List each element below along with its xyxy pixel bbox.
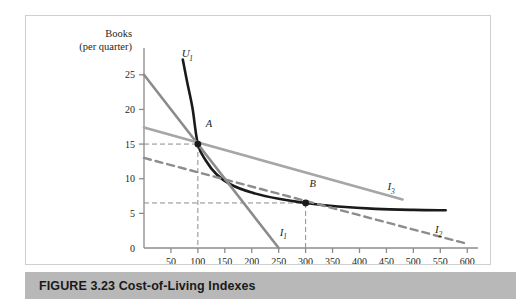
y-axis-tick-label: 5 xyxy=(130,208,135,219)
x-axis-tick-label: 150 xyxy=(217,256,232,264)
curve-label-sub-i3: 3 xyxy=(390,187,395,196)
y-axis-title-line1: Books xyxy=(105,28,132,39)
x-axis-tick-label: 300 xyxy=(298,256,313,264)
x-axis-tick-label: 400 xyxy=(352,256,367,264)
figure-root: 0510152025501001502002503003504004505005… xyxy=(0,0,516,299)
x-axis-tick-label: 200 xyxy=(244,256,259,264)
y-axis-tick-label: 10 xyxy=(125,173,135,184)
curve-label-sub-u1: 1 xyxy=(189,54,193,63)
x-axis-tick-label: 50 xyxy=(166,256,176,264)
figure-caption-text: FIGURE 3.23 Cost-of-Living Indexes xyxy=(39,279,256,293)
data-point-label-b: B xyxy=(310,178,317,189)
y-axis-tick-label: 0 xyxy=(130,243,135,254)
y-axis-title-line2: (per quarter) xyxy=(79,41,132,53)
y-axis-tick-label: 15 xyxy=(125,139,135,150)
x-axis-tick-label: 500 xyxy=(406,256,421,264)
y-axis-tick-label: 25 xyxy=(125,69,135,80)
curve-label-sub-i1: 1 xyxy=(283,232,287,241)
x-axis-tick-label: 100 xyxy=(190,256,205,264)
figure-plot-frame: 0510152025501001502002503003504004505005… xyxy=(25,15,491,265)
x-axis-tick-label: 600 xyxy=(460,256,475,264)
curve-i3 xyxy=(144,127,403,199)
figure-caption-bar: FIGURE 3.23 Cost-of-Living Indexes xyxy=(25,272,516,299)
cost-of-living-chart: 0510152025501001502002503003504004505005… xyxy=(26,16,490,264)
x-axis-tick-label: 250 xyxy=(271,256,286,264)
curve-label-sub-i2: 2 xyxy=(438,230,442,239)
curve-i1 xyxy=(144,75,279,248)
y-axis-tick-label: 20 xyxy=(125,104,135,115)
data-point-a xyxy=(194,141,201,148)
data-point-b xyxy=(302,200,309,207)
x-axis-tick-label: 550 xyxy=(433,256,448,264)
data-point-label-a: A xyxy=(205,118,213,129)
x-axis-tick-label: 450 xyxy=(379,256,394,264)
x-axis-tick-label: 350 xyxy=(325,256,340,264)
